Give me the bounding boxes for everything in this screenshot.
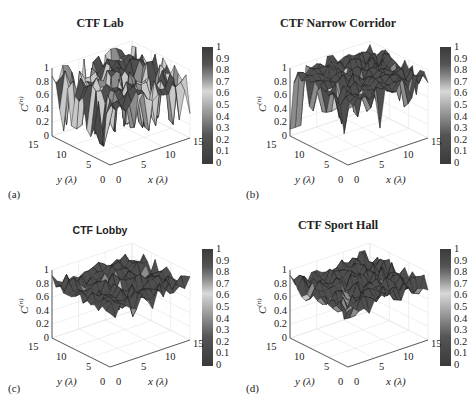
colorbar-tick-label: 1 <box>454 42 459 52</box>
z-axis-label: C(n) <box>255 298 268 314</box>
colorbar-tick-label: 0.6 <box>454 88 467 98</box>
colorbar-tick-label: 0.5 <box>216 302 229 312</box>
colorbar-tick-label: 0 <box>216 158 221 168</box>
x-tick-label: 5 <box>379 160 384 170</box>
z-axis-label-sup: (n) <box>255 298 263 306</box>
y-tick-label: 0 <box>100 377 105 387</box>
z-tick-label: 0.8 <box>27 279 49 289</box>
z-axis-label-base: C <box>18 307 30 314</box>
x-tick-label: 15 <box>193 339 204 349</box>
colorbar-tick-label: 1 <box>216 42 221 52</box>
x-tick-label: 10 <box>165 352 176 362</box>
z-axis-label-base: C <box>18 105 30 112</box>
panel-label: (a) <box>8 188 20 200</box>
colorbar-tick-label: 0.6 <box>216 290 229 300</box>
colorbar-tick-label: 0.8 <box>454 65 467 75</box>
colorbar-tick-label: 0.7 <box>216 77 229 87</box>
x-tick-label: 15 <box>431 339 442 349</box>
z-axis-label: C(n) <box>255 96 268 112</box>
z-tick-label: 0.2 <box>265 319 287 329</box>
panel-label: (d) <box>246 382 259 394</box>
colorbar-tick-label: 1 <box>216 244 221 254</box>
x-tick-label: 0 <box>116 175 121 185</box>
y-tick-label: 10 <box>294 150 305 160</box>
z-tick-label: 1 <box>265 265 287 275</box>
colorbar-tick-label: 0.2 <box>454 337 467 347</box>
colorbar-tick-label: 0.3 <box>216 123 229 133</box>
panel-label: (b) <box>246 188 259 200</box>
colorbar-tick-label: 0 <box>454 158 459 168</box>
colorbar-tick-label: 0.1 <box>216 348 229 358</box>
colorbar-tick-label: 0.5 <box>454 302 467 312</box>
z-tick-label: 0.4 <box>265 104 287 114</box>
colorbar <box>202 249 213 366</box>
colorbar-tick-label: 0.3 <box>454 123 467 133</box>
z-tick-label: 0.8 <box>27 77 49 87</box>
y-tick-label: 5 <box>324 362 329 372</box>
x-tick-label: 5 <box>141 362 146 372</box>
chart-title: CTF Lobby <box>0 224 200 236</box>
y-tick-label: 10 <box>56 150 67 160</box>
z-tick-label: 0.6 <box>27 292 49 302</box>
colorbar-tick-label: 0.1 <box>454 348 467 358</box>
colorbar-tick-label: 0.7 <box>454 279 467 289</box>
x-tick-label: 10 <box>165 150 176 160</box>
colorbar-tick-label: 0.8 <box>216 65 229 75</box>
colorbar-tick-label: 0.9 <box>216 54 229 64</box>
x-tick-label: 0 <box>354 377 359 387</box>
colorbar <box>440 249 451 366</box>
x-axis-label: x (λ) <box>386 375 406 387</box>
colorbar-tick-label: 0.4 <box>216 314 229 324</box>
x-tick-label: 10 <box>403 352 414 362</box>
z-tick-label: 0.8 <box>265 279 287 289</box>
colorbar-tick-label: 0.4 <box>454 314 467 324</box>
colorbar-tick-label: 0.5 <box>454 100 467 110</box>
y-tick-label: 5 <box>86 362 91 372</box>
x-tick-label: 0 <box>116 377 121 387</box>
z-axis-label-base: C <box>256 307 268 314</box>
x-tick-label: 15 <box>431 137 442 147</box>
chart-panel-c: CTF Lobby(c)10.80.60.40.2010.90.80.70.60… <box>0 202 238 404</box>
colorbar-tick-label: 0.2 <box>216 135 229 145</box>
y-axis-label: y (λ) <box>57 173 77 185</box>
colorbar-tick-label: 0.4 <box>216 112 229 122</box>
colorbar-tick-label: 0.8 <box>454 267 467 277</box>
x-axis-label: x (λ) <box>148 173 168 185</box>
colorbar-tick-label: 0.5 <box>216 100 229 110</box>
y-axis-label: y (λ) <box>295 375 315 387</box>
chart-panel-b: CTF Narrow Corridor(b)10.80.60.40.2010.9… <box>238 0 476 202</box>
chart-title: CTF Narrow Corridor <box>238 16 438 31</box>
z-tick-label: 0.2 <box>265 117 287 127</box>
y-tick-label: 5 <box>324 160 329 170</box>
colorbar-tick-label: 0 <box>216 360 221 370</box>
y-tick-label: 15 <box>28 342 39 352</box>
colorbar <box>440 47 451 164</box>
x-tick-label: 15 <box>193 137 204 147</box>
y-axis-label: y (λ) <box>295 173 315 185</box>
colorbar-tick-label: 0.9 <box>454 54 467 64</box>
z-tick-label: 0.2 <box>27 117 49 127</box>
z-tick-label: 0.6 <box>265 292 287 302</box>
colorbar-tick-label: 0.8 <box>216 267 229 277</box>
z-tick-label: 0.6 <box>265 90 287 100</box>
z-tick-label: 0.4 <box>27 306 49 316</box>
z-tick-label: 0.4 <box>27 104 49 114</box>
y-tick-label: 15 <box>28 140 39 150</box>
z-tick-label: 0.6 <box>27 90 49 100</box>
colorbar-tick-label: 0.1 <box>454 146 467 156</box>
chart-title: CTF Lab <box>0 16 200 31</box>
x-axis-label: x (λ) <box>148 375 168 387</box>
z-tick-label: 1 <box>265 63 287 73</box>
x-tick-label: 5 <box>141 160 146 170</box>
y-tick-label: 0 <box>338 377 343 387</box>
x-tick-label: 10 <box>403 150 414 160</box>
colorbar-tick-label: 0.6 <box>216 88 229 98</box>
z-axis-label-sup: (n) <box>17 96 25 104</box>
colorbar-tick-label: 0.4 <box>454 112 467 122</box>
x-tick-label: 5 <box>379 362 384 372</box>
z-tick-label: 0.2 <box>27 319 49 329</box>
y-tick-label: 0 <box>338 175 343 185</box>
chart-panel-a: CTF Lab(a)10.80.60.40.2010.90.80.70.60.5… <box>0 0 238 202</box>
z-tick-label: 0.4 <box>265 306 287 316</box>
y-tick-label: 15 <box>266 140 277 150</box>
